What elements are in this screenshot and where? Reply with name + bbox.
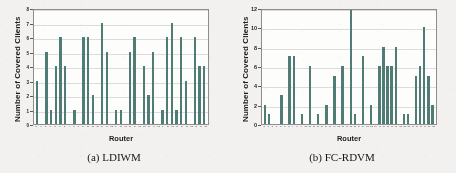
bar	[50, 110, 52, 125]
bar	[203, 66, 205, 124]
y-tick-label: 4	[242, 83, 257, 89]
x-tick-label: 26	[370, 126, 372, 129]
x-tick-label: 24	[148, 126, 150, 129]
x-axis-label: Router	[261, 134, 437, 143]
bar	[288, 56, 290, 124]
x-tick-label: 29	[383, 126, 385, 129]
x-tick-label: 23	[143, 126, 145, 129]
bar	[36, 81, 38, 125]
x-tick-label: 10	[82, 126, 84, 129]
y-tick-label: 5	[16, 50, 29, 55]
bar	[333, 76, 335, 124]
x-tick-label: 4	[54, 126, 56, 129]
y-tick-label: 6	[16, 36, 29, 41]
y-tick-label: 8	[242, 45, 257, 51]
bar	[55, 66, 57, 124]
x-tick-label: 18	[337, 126, 339, 129]
y-tick-label: 12	[242, 6, 257, 12]
y-tick-mark	[30, 38, 33, 39]
bar	[152, 52, 154, 125]
bar	[280, 95, 282, 124]
y-tick-mark	[30, 24, 33, 25]
x-tick-label: 15	[106, 126, 108, 129]
y-tick-label: 3	[16, 79, 29, 84]
x-tick-label: 32	[395, 126, 397, 129]
x-tick-label: 35	[407, 126, 409, 129]
y-tick-label: 2	[242, 103, 257, 109]
bar	[362, 56, 364, 124]
x-tick-label: 6	[63, 126, 65, 129]
bar	[106, 52, 108, 125]
bar	[92, 95, 94, 124]
y-tick-mark	[30, 67, 33, 68]
x-tick-label: 4	[280, 126, 282, 129]
x-tick-label: 19	[124, 126, 126, 129]
x-tick-label: 5	[59, 126, 61, 129]
bar	[59, 37, 61, 124]
x-tick-label: 33	[190, 126, 192, 129]
bar	[309, 66, 311, 124]
panel-caption: (b) FC-RDVM	[228, 151, 456, 163]
bar	[133, 37, 135, 124]
x-tick-label: 2	[44, 126, 46, 129]
x-tick-label: 1	[40, 126, 42, 129]
bar-series-fcrdvm	[262, 10, 436, 124]
x-axis-ticks: 0123456789101112131415161718192021222324…	[261, 126, 437, 129]
bar	[354, 114, 356, 124]
y-tick-mark	[30, 53, 33, 54]
x-tick-label: 0	[35, 126, 37, 129]
y-tick-mark	[258, 106, 261, 107]
panel-caption: (a) LDIWM	[0, 151, 228, 163]
x-tick-label: 14	[101, 126, 103, 129]
x-tick-label: 16	[110, 126, 112, 129]
bar	[264, 105, 266, 124]
x-tick-label: 39	[424, 126, 426, 129]
x-tick-label: 5	[284, 126, 286, 129]
x-tick-label: 35	[200, 126, 202, 129]
x-tick-label: 21	[134, 126, 136, 129]
x-tick-label: 11	[87, 126, 89, 129]
x-tick-label: 41	[432, 126, 434, 129]
bar	[423, 27, 425, 124]
x-tick-label: 27	[374, 126, 376, 129]
x-tick-label: 30	[387, 126, 389, 129]
bar	[64, 66, 66, 124]
x-tick-label: 31	[391, 126, 393, 129]
x-tick-label: 36	[412, 126, 414, 129]
bar	[180, 37, 182, 124]
x-tick-label: 3	[275, 126, 277, 129]
x-tick-label: 3	[49, 126, 51, 129]
y-tick-mark	[30, 9, 33, 10]
y-tick-label: 8	[16, 7, 29, 12]
bar	[185, 81, 187, 125]
x-tick-label: 0	[263, 126, 265, 129]
figure-container: Number of Covered Clients 012345678 0123…	[0, 0, 456, 173]
x-tick-label: 34	[195, 126, 197, 129]
bar	[115, 110, 117, 125]
y-tick-mark	[258, 9, 261, 10]
x-tick-label: 6	[288, 126, 290, 129]
x-tick-label: 32	[186, 126, 188, 129]
y-tick-label: 0	[16, 123, 29, 128]
bar	[341, 66, 343, 124]
y-tick-label: 10	[242, 25, 257, 31]
y-tick-mark	[30, 82, 33, 83]
bar	[382, 47, 384, 124]
bar	[175, 110, 177, 125]
bar	[171, 23, 173, 125]
bar	[120, 110, 122, 125]
bar	[415, 76, 417, 124]
x-tick-label: 2	[271, 126, 273, 129]
bar	[194, 37, 196, 124]
x-tick-label: 31	[181, 126, 183, 129]
y-tick-label: 1	[16, 108, 29, 113]
bar	[293, 56, 295, 124]
x-tick-label: 7	[292, 126, 294, 129]
y-tick-mark	[258, 48, 261, 49]
bar	[45, 52, 47, 125]
x-tick-label: 8	[73, 126, 75, 129]
y-tick-mark	[30, 96, 33, 97]
bar	[73, 110, 75, 125]
bar	[350, 9, 352, 124]
bar	[403, 114, 405, 124]
